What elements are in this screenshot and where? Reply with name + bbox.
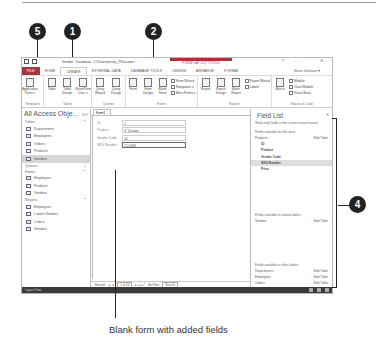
nav-item-products-table[interactable]: Products bbox=[22, 148, 90, 156]
save-icon[interactable] bbox=[32, 59, 37, 64]
first-record-button[interactable]: |◂ ◂ bbox=[109, 283, 115, 287]
workspace: All Access Obje...⊙ « Tables⌃ Department… bbox=[22, 109, 332, 287]
window-controls[interactable]: ? – ▫ ✕ bbox=[282, 59, 328, 63]
form-wizard-button[interactable]: Form Wizard bbox=[171, 79, 196, 83]
blank-form-icon bbox=[159, 78, 167, 87]
tab-strip-rule bbox=[91, 115, 250, 116]
field-row-id: ID1 bbox=[97, 119, 186, 127]
field-row-sku-number: SKU NumberCL2468 bbox=[97, 142, 186, 150]
nav-item-orders-table[interactable]: Orders bbox=[22, 140, 90, 148]
application-parts-icon bbox=[26, 78, 34, 87]
blank-form: ID1 Product3" Drawer Vendor CodeGL SKU N… bbox=[97, 119, 186, 149]
tab-create[interactable]: CREATE bbox=[60, 67, 86, 75]
nav-item-departments-table[interactable]: Departments bbox=[22, 125, 90, 133]
nav-item-vendors-table[interactable]: Vendors bbox=[22, 155, 90, 163]
field-list-bracket bbox=[332, 118, 337, 288]
nav-section-reports[interactable]: Reports⌃ bbox=[22, 197, 90, 203]
quick-access-toolbar bbox=[24, 59, 37, 64]
visual-basic-button[interactable]: Visual Basic bbox=[289, 91, 313, 95]
tab-database-tools[interactable]: DATABASE TOOLS bbox=[126, 67, 168, 75]
nav-item-products-form[interactable]: Products bbox=[22, 182, 90, 190]
labels-icon bbox=[245, 85, 249, 89]
next-record-button[interactable]: ▸ ▸| ▸* bbox=[135, 283, 145, 287]
spacer bbox=[251, 224, 332, 262]
group-macros-code: Macro Module Class Module Visual Basic M… bbox=[272, 76, 332, 107]
figure-caption: Blank form with added fields bbox=[109, 324, 228, 335]
nav-item-employees-report[interactable]: Employees bbox=[22, 203, 90, 211]
callout-5: 5 bbox=[29, 23, 46, 40]
nav-section-forms[interactable]: Forms⌃ bbox=[22, 169, 90, 175]
tab-arrange[interactable]: ARRANGE bbox=[191, 67, 219, 75]
tab-design[interactable]: DESIGN bbox=[167, 67, 191, 75]
nav-item-labels-vendors-report[interactable]: Labels Vendors bbox=[22, 211, 90, 219]
report-wizard-icon bbox=[245, 79, 249, 83]
navigation-pane: All Access Obje...⊙ « Tables⌃ Department… bbox=[22, 109, 91, 287]
form-design-icon bbox=[144, 78, 152, 87]
title-bar: Vendor : Database- C:\Users\jenny_2\Docu… bbox=[22, 58, 332, 67]
show-current-record-source-link[interactable]: Show only fields in the current record s… bbox=[251, 122, 332, 129]
nav-pane-header[interactable]: All Access Obje...⊙ « bbox=[22, 109, 90, 119]
tab-format[interactable]: FORMAT bbox=[219, 67, 244, 75]
query-design-icon bbox=[112, 78, 120, 87]
table-icon bbox=[26, 149, 31, 153]
tab-file[interactable]: FILE bbox=[22, 67, 40, 75]
table-icon bbox=[26, 142, 31, 146]
report-icon bbox=[26, 212, 31, 216]
nav-item-employees-table[interactable]: Employees bbox=[22, 133, 90, 141]
status-bar: Layout View bbox=[22, 287, 332, 293]
user-account[interactable]: Steve Johnson ▾ bbox=[294, 69, 320, 73]
more-forms-button[interactable]: More Forms ▾ bbox=[171, 91, 196, 95]
collapse-icon: ⌃ bbox=[83, 170, 86, 174]
group-forms: Form Form Design Blank Form Form Wizard … bbox=[126, 76, 198, 107]
more-forms-icon bbox=[171, 91, 175, 95]
navigation-button[interactable]: Navigation ▾ bbox=[171, 85, 196, 89]
product-field[interactable]: 3" Drawer bbox=[122, 127, 186, 133]
vendor-code-field[interactable]: GL bbox=[122, 135, 186, 141]
edit-table-link[interactable]: Edit Table bbox=[314, 136, 328, 140]
blank-report-icon bbox=[232, 78, 240, 87]
form-icon bbox=[26, 191, 31, 195]
module-button[interactable]: Module bbox=[289, 79, 313, 83]
nav-item-vendors-form[interactable]: Vendors bbox=[22, 190, 90, 198]
nav-pane-controls-icon[interactable]: ⊙ « bbox=[82, 112, 88, 117]
design-view-icon[interactable] bbox=[325, 288, 329, 292]
nav-item-orders-report[interactable]: Orders bbox=[22, 218, 90, 226]
field-row-vendor-code: Vendor CodeGL bbox=[97, 134, 186, 142]
view-switcher bbox=[309, 288, 329, 292]
labels-button[interactable]: Labels bbox=[245, 85, 270, 89]
nav-item-employees-form[interactable]: Employees bbox=[22, 175, 90, 183]
nav-item-vendors-report[interactable]: Vendors bbox=[22, 226, 90, 234]
tab-home[interactable]: HOME bbox=[40, 67, 61, 75]
filter-indicator[interactable]: No Filter bbox=[148, 283, 159, 287]
layout-view-icon[interactable] bbox=[317, 288, 321, 292]
id-field[interactable]: 1 bbox=[122, 120, 186, 126]
report-icon bbox=[202, 78, 210, 87]
form-icon bbox=[129, 78, 137, 87]
callout-2: 2 bbox=[145, 23, 162, 40]
visual-basic-icon bbox=[289, 91, 293, 95]
class-module-icon bbox=[289, 85, 293, 89]
class-module-button[interactable]: Class Module bbox=[289, 85, 313, 89]
callout-4: 4 bbox=[349, 196, 366, 213]
group-templates: Application Parts ▾ Templates bbox=[22, 76, 44, 107]
form-view-icon[interactable] bbox=[309, 288, 313, 292]
group-tables: Table Table Design SharePoint Lists ▾ Ta… bbox=[44, 76, 92, 107]
report-wizard-button[interactable]: Report Wizard bbox=[245, 79, 270, 83]
sharepoint-lists-icon bbox=[79, 78, 87, 87]
field-list-pane: Field List ✕ Show only fields in the cur… bbox=[250, 109, 332, 287]
nav-section-tables[interactable]: Tables⌃ bbox=[22, 119, 90, 125]
form-icon bbox=[26, 176, 31, 180]
macro-icon bbox=[276, 78, 284, 87]
collapse-icon: ⌃ bbox=[83, 120, 86, 124]
access-window: Vendor : Database- C:\Users\jenny_2\Docu… bbox=[21, 57, 333, 294]
context-tab-group-label: FORM LAYOUT TOOLS bbox=[182, 61, 220, 65]
callout-1: 1 bbox=[64, 23, 81, 40]
sku-number-field[interactable]: CL2468 bbox=[122, 142, 186, 148]
report-design-icon bbox=[217, 78, 225, 87]
close-icon[interactable]: ✕ bbox=[326, 112, 329, 117]
caption-line bbox=[115, 170, 116, 318]
expand-icon: ⌄ bbox=[83, 164, 86, 168]
query-wizard-icon bbox=[96, 78, 104, 87]
tab-external-data[interactable]: EXTERNAL DATA bbox=[87, 67, 126, 75]
table-design-icon bbox=[63, 78, 71, 87]
